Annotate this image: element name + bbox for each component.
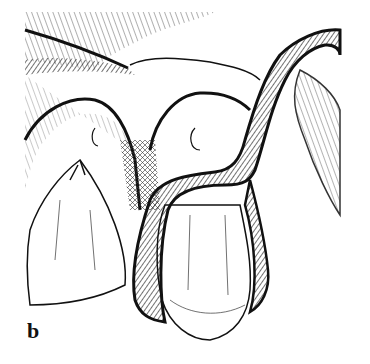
left-tooth bbox=[27, 160, 125, 305]
left-pore bbox=[92, 128, 98, 146]
drawing bbox=[0, 0, 370, 364]
center-pore bbox=[191, 128, 200, 150]
center-gum-line bbox=[150, 93, 250, 150]
central-tooth bbox=[157, 205, 250, 340]
dental-illustration: b bbox=[0, 0, 370, 364]
panel-label: b bbox=[27, 318, 39, 344]
